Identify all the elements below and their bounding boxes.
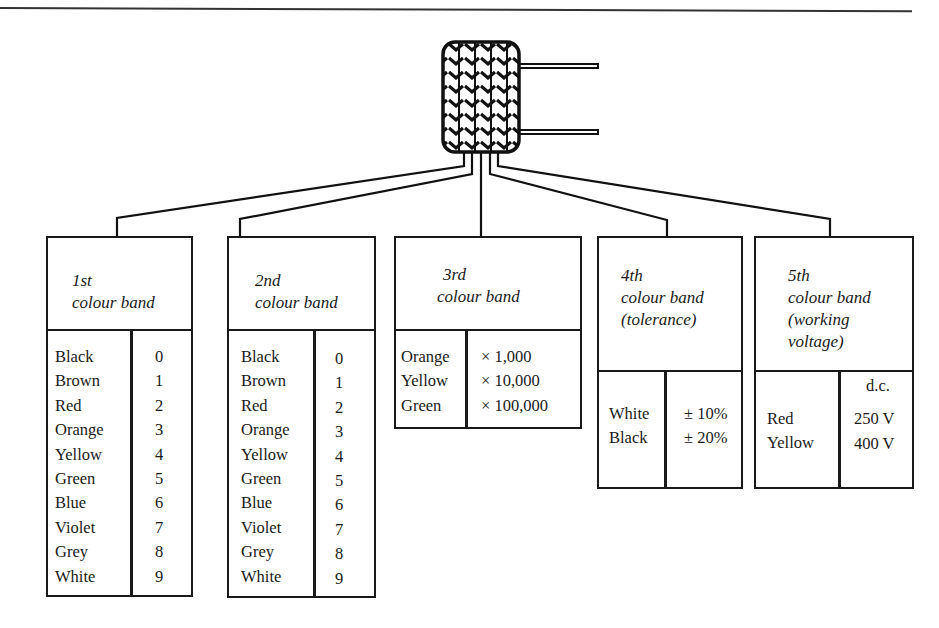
column-divider [130,331,133,595]
dc-header: d.c. [854,374,895,398]
band-5-label: 5th [788,265,912,287]
band-4-table: 4th colour band (tolerance) White Black … [597,236,743,489]
band-5-label: voltage) [788,331,912,353]
band-4-label: colour band [621,287,741,309]
band-3-header: 3rd colour band [396,238,580,331]
column-divider [313,331,316,596]
band-4-label: (tolerance) [621,309,741,331]
band-1-values: 0 1 2 3 4 5 6 7 8 9 [155,331,163,595]
band-1-table: 1st colour band Black Brown Red Orange Y… [46,236,193,597]
band-4-header: 4th colour band (tolerance) [599,238,741,372]
band-2-label: colour band [255,292,374,314]
band-1-label: colour band [72,292,191,314]
band-5-header: 5th colour band (working voltage) [756,238,912,372]
band-4-tolerances: ± 10% ± 20% [684,372,727,487]
band-3-label: 3rd [443,264,580,286]
band-5-label: (working [788,309,912,331]
band-2-values: 0 1 2 3 4 5 6 7 8 9 [335,331,343,596]
band-2-colours: Black Brown Red Orange Yellow Green Blue… [241,331,290,596]
band-5-label: colour band [788,287,912,309]
band-1-label: 1st [72,270,191,292]
band-2-header: 2nd colour band [229,238,374,331]
band-1-colours: Black Brown Red Orange Yellow Green Blue… [55,331,104,595]
band-2-label: 2nd [255,270,374,292]
band-5-table: 5th colour band (working voltage) Red Ye… [754,236,914,489]
column-divider [664,372,667,487]
band-connector-lines [117,152,830,237]
capacitor-icon [443,42,598,152]
band-3-colours: Orange Yellow Green [401,331,450,427]
band-3-multipliers: × 1,000 × 10,000 × 100,000 [481,331,548,427]
band-3-table: 3rd colour band Orange Yellow Green × 1,… [394,236,582,429]
band-5-colours: Red Yellow [767,372,814,487]
column-divider [465,331,468,427]
band-2-table: 2nd colour band Black Brown Red Orange Y… [227,236,376,598]
band-3-label: colour band [437,286,580,308]
band-4-label: 4th [621,265,741,287]
band-5-voltages: d.c. 250 V 400 V [854,372,895,487]
column-divider [838,372,841,487]
band-4-colours: White Black [609,372,649,487]
band-1-header: 1st colour band [48,238,191,331]
